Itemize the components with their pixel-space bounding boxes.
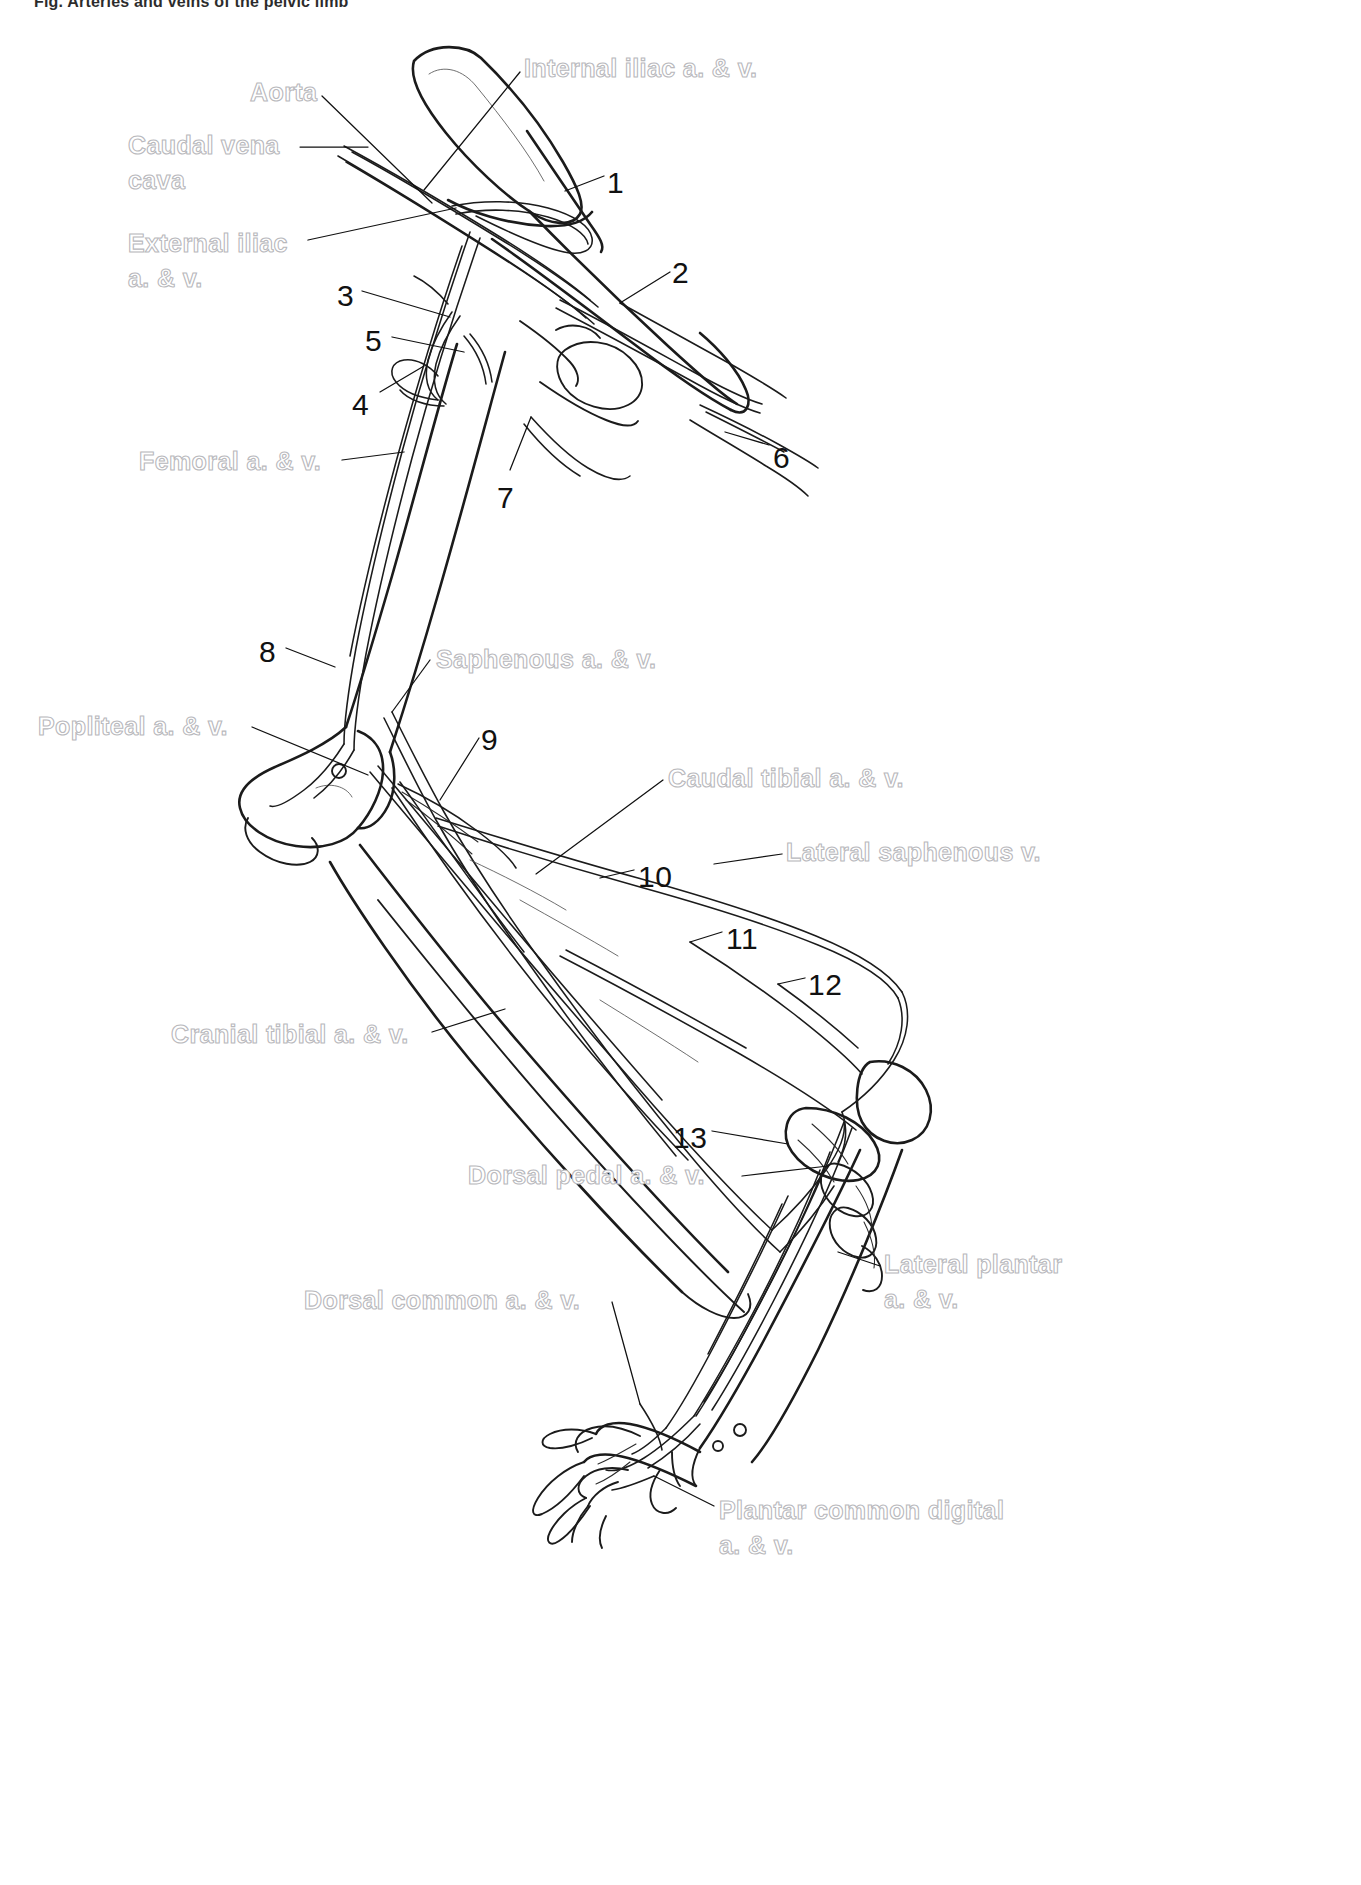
label-aorta: Aorta <box>250 76 317 109</box>
leader-line-aorta <box>322 96 432 203</box>
label-dorsal-common: Dorsal common a. & v. <box>304 1284 580 1317</box>
index-label-11: 11 <box>726 919 758 958</box>
leader-line-n3 <box>362 291 450 317</box>
leader-line-n6 <box>725 432 769 445</box>
leader-line-n2 <box>620 272 670 303</box>
leader-line-n12 <box>778 978 805 984</box>
label-cranial-tibial: Cranial tibial a. & v. <box>171 1018 409 1051</box>
index-label-9: 9 <box>481 720 498 759</box>
label-internal-iliac: Internal iliac a. & v. <box>524 52 757 85</box>
label-dorsal-pedal: Dorsal pedal a. & v. <box>468 1159 705 1192</box>
index-label-7: 7 <box>497 478 514 517</box>
leader-line-dorsal-common <box>612 1302 640 1404</box>
leader-line-saphenous <box>392 660 430 712</box>
leader-line-n7 <box>510 417 531 470</box>
label-popliteal: Popliteal a. & v. <box>38 710 228 743</box>
leader-line-n13 <box>712 1131 788 1144</box>
label-external-iliac: External iliac a. & v. <box>128 226 288 295</box>
leader-line-n9 <box>440 738 479 800</box>
index-label-13: 13 <box>673 1118 707 1157</box>
index-label-1: 1 <box>607 163 624 202</box>
index-label-12: 12 <box>808 965 842 1004</box>
label-femoral: Femoral a. & v. <box>139 445 321 478</box>
leader-line-n10 <box>600 870 634 878</box>
leader-line-popliteal <box>252 727 368 775</box>
leader-line-lateral-saphenous <box>714 854 782 864</box>
index-label-8: 8 <box>259 632 276 671</box>
label-caudal-tibial: Caudal tibial a. & v. <box>668 762 904 795</box>
leader-line-femoral <box>342 452 404 460</box>
leader-line-n8 <box>286 648 335 667</box>
label-lateral-plantar: Lateral plantar a. & v. <box>884 1247 1062 1316</box>
label-lateral-saphenous: Lateral saphenous v. <box>786 836 1041 869</box>
index-label-6: 6 <box>773 438 790 477</box>
index-label-2: 2 <box>672 253 689 292</box>
leader-line-external-iliac <box>308 208 456 240</box>
figure-page: Fig. Arteries and veins of the pelvic li… <box>0 0 1361 1885</box>
bone-outlines <box>239 47 930 1548</box>
index-label-5: 5 <box>365 321 382 360</box>
leader-line-internal-iliac <box>424 72 520 190</box>
label-plantar-common: Plantar common digital a. & v. <box>719 1493 1004 1562</box>
index-label-10: 10 <box>638 857 672 896</box>
label-caudal-vena-cava: Caudal vena cava <box>128 128 280 197</box>
label-saphenous: Saphenous a. & v. <box>436 643 656 676</box>
index-label-3: 3 <box>337 276 354 315</box>
leader-line-n11 <box>690 932 722 942</box>
index-label-4: 4 <box>352 385 369 424</box>
